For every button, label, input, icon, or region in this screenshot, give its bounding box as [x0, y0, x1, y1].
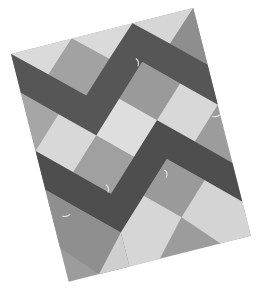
quilt: [11, 8, 251, 282]
quilt-photo: [0, 0, 273, 293]
